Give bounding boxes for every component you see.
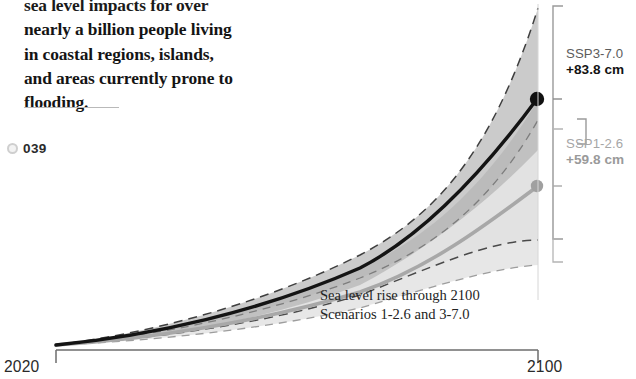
scenario-label-ssp1-2-6: SSP1-2.6 +59.8 cm xyxy=(566,136,624,167)
sea-level-chart: SSP3-7.0 +83.8 cm SSP1-2.6 +59.8 cm Sea … xyxy=(0,0,636,379)
ssp1-scenario-value: +59.8 cm xyxy=(566,152,624,167)
ssp3-7-0-endpoint-dot xyxy=(530,92,544,106)
ssp3-scenario-value: +83.8 cm xyxy=(566,62,624,77)
chart-caption-line-1: Sea level rise through 2100 xyxy=(320,286,480,305)
x-axis-line xyxy=(56,350,538,363)
ssp3-range-bracket xyxy=(553,6,563,239)
axis-label-start-year: 2020 xyxy=(4,358,40,376)
axis-label-end-year: 2100 xyxy=(527,358,563,376)
ssp1-2-6-endpoint-dot xyxy=(531,180,543,192)
sea-level-rise-figure: sea level impacts for over nearly a bill… xyxy=(0,0,636,379)
ssp1-label-bracket xyxy=(553,129,563,262)
chart-caption-line-2: Scenarios 1-2.6 and 3-7.0 xyxy=(320,305,480,324)
ssp1-scenario-name: SSP1-2.6 xyxy=(566,136,624,151)
chart-svg xyxy=(0,0,636,379)
ssp3-scenario-name: SSP3-7.0 xyxy=(566,46,624,61)
scenario-label-ssp3-7-0: SSP3-7.0 +83.8 cm xyxy=(566,46,624,77)
chart-caption: Sea level rise through 2100 Scenarios 1-… xyxy=(320,286,480,324)
